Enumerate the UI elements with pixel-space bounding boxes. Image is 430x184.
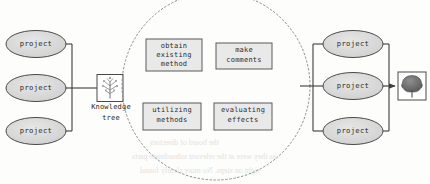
node-knowledge-tree[interactable] — [97, 75, 123, 102]
node-make-comments[interactable] — [216, 43, 272, 69]
node-right-project-2[interactable] — [323, 73, 383, 100]
diagram-canvas: the board of directors as they were at t… — [0, 0, 430, 184]
node-right-project-3[interactable] — [323, 118, 383, 145]
node-obtain-existing-method[interactable] — [146, 39, 202, 71]
node-evaluating-effects[interactable] — [214, 103, 272, 130]
node-grown-tree[interactable] — [398, 72, 426, 100]
node-right-project-1[interactable] — [323, 31, 383, 58]
node-left-project-2[interactable] — [6, 75, 66, 102]
node-utilizing-methods[interactable] — [143, 103, 201, 130]
node-left-project-3[interactable] — [6, 118, 66, 145]
node-left-project-1[interactable] — [6, 31, 66, 58]
process-circle-outline — [122, 0, 310, 180]
